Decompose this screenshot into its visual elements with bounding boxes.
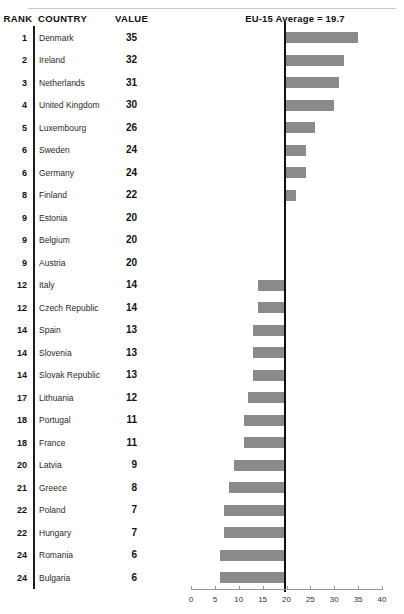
cell-country: Germany (39, 162, 74, 185)
table-row: 14Spain13 (0, 319, 190, 342)
cell-value: 20 (115, 229, 137, 252)
cell-value: 9 (115, 454, 137, 477)
bar-greece (229, 482, 285, 493)
x-axis-line (191, 589, 382, 590)
x-axis-label: 0 (181, 595, 201, 604)
cell-value: 26 (115, 117, 137, 140)
bar-germany (285, 167, 306, 178)
x-axis-label: 40 (372, 595, 392, 604)
bar-estonia (285, 212, 286, 223)
eu15-average-line (284, 22, 286, 592)
bar-slovenia (253, 347, 285, 358)
bar-czech-republic (258, 302, 285, 313)
table-row: 1Denmark35 (0, 27, 190, 50)
cell-rank: 12 (0, 274, 27, 297)
chart-title: EU-15 Average = 19.7 (215, 13, 375, 24)
cell-rank: 3 (0, 72, 27, 95)
cell-country: Italy (39, 274, 55, 297)
cell-rank: 20 (0, 454, 27, 477)
bar-lithuania (248, 392, 285, 403)
cell-country: Portugal (39, 409, 71, 432)
cell-rank: 1 (0, 27, 27, 50)
cell-country: Belgium (39, 229, 70, 252)
cell-rank: 9 (0, 252, 27, 275)
cell-value: 20 (115, 207, 137, 230)
table-row: 22Hungary7 (0, 522, 190, 545)
cell-value: 7 (115, 522, 137, 545)
table-row: 9Estonia20 (0, 207, 190, 230)
table-row: 9Austria20 (0, 252, 190, 275)
column-header-rank: RANK (3, 13, 33, 24)
cell-country: United Kingdom (39, 94, 99, 117)
bar-slovak-republic (253, 370, 285, 381)
cell-value: 14 (115, 297, 137, 320)
bar-hungary (224, 527, 285, 538)
table-row: 12Italy14 (0, 274, 190, 297)
cell-rank: 24 (0, 544, 27, 567)
bar-finland (285, 190, 296, 201)
cell-rank: 14 (0, 364, 27, 387)
cell-value: 13 (115, 319, 137, 342)
cell-rank: 14 (0, 342, 27, 365)
cell-value: 11 (115, 432, 137, 455)
cell-value: 14 (115, 274, 137, 297)
cell-country: Denmark (39, 27, 73, 50)
table-row: 18Portugal11 (0, 409, 190, 432)
cell-value: 32 (115, 49, 137, 72)
bar-romania (220, 550, 285, 561)
x-axis-tick (310, 586, 311, 590)
cell-rank: 22 (0, 499, 27, 522)
bar-ireland (285, 55, 344, 66)
cell-value: 31 (115, 72, 137, 95)
cell-rank: 9 (0, 207, 27, 230)
cell-value: 12 (115, 387, 137, 410)
bar-portugal (244, 415, 286, 426)
cell-country: Sweden (39, 139, 70, 162)
table-row: 9Belgium20 (0, 229, 190, 252)
table-row: 12Czech Republic14 (0, 297, 190, 320)
cell-value: 35 (115, 27, 137, 50)
cell-rank: 9 (0, 229, 27, 252)
cell-rank: 22 (0, 522, 27, 545)
cell-rank: 18 (0, 432, 27, 455)
bar-denmark (285, 32, 358, 43)
cell-country: Bulgaria (39, 567, 70, 590)
cell-rank: 24 (0, 567, 27, 590)
table-row: 22Poland7 (0, 499, 190, 522)
table-row: 20Latvia9 (0, 454, 190, 477)
cell-value: 11 (115, 409, 137, 432)
cell-rank: 21 (0, 477, 27, 500)
x-axis-tick (215, 586, 216, 590)
cell-rank: 2 (0, 49, 27, 72)
table-row: 5Luxembourg26 (0, 117, 190, 140)
table-row: 18France11 (0, 432, 190, 455)
cell-country: Czech Republic (39, 297, 99, 320)
cell-value: 24 (115, 162, 137, 185)
cell-country: Lithuania (39, 387, 74, 410)
cell-value: 7 (115, 499, 137, 522)
cell-value: 13 (115, 364, 137, 387)
cell-rank: 8 (0, 184, 27, 207)
cell-value: 6 (115, 544, 137, 567)
cell-country: Poland (39, 499, 65, 522)
cell-country: Luxembourg (39, 117, 86, 140)
table-row: 21Greece8 (0, 477, 190, 500)
cell-country: Slovenia (39, 342, 72, 365)
cell-country: Latvia (39, 454, 62, 477)
cell-country: Austria (39, 252, 65, 275)
bar-belgium (285, 235, 286, 246)
table-row: 6Sweden24 (0, 139, 190, 162)
chart-page: RANK COUNTRY VALUE EU-15 Average = 19.7 … (0, 0, 404, 614)
bar-netherlands (285, 77, 339, 88)
top-divider-rule (28, 8, 396, 9)
cell-country: Ireland (39, 49, 65, 72)
x-axis-label: 20 (277, 595, 297, 604)
x-axis-label: 15 (253, 595, 273, 604)
cell-country: Slovak Republic (39, 364, 100, 387)
bar-united-kingdom (285, 100, 334, 111)
cell-country: Romania (39, 544, 73, 567)
cell-rank: 18 (0, 409, 27, 432)
cell-rank: 6 (0, 139, 27, 162)
cell-country: Estonia (39, 207, 67, 230)
cell-country: France (39, 432, 65, 455)
